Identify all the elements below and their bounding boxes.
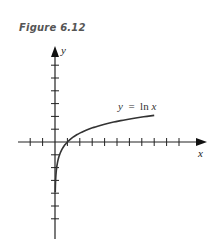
x-axis-arrow-icon <box>196 138 207 146</box>
y-axis-arrow-icon <box>51 46 59 57</box>
ln-curve <box>55 115 154 192</box>
axes <box>18 46 207 239</box>
y-axis-label: y <box>60 44 66 56</box>
plot-area: y x y = ln x <box>0 0 214 252</box>
x-axis-label: x <box>197 147 203 159</box>
curve-label: y = ln x <box>117 100 156 112</box>
